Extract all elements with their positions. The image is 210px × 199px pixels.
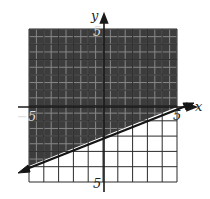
y-tick-bottom: 5	[93, 176, 101, 191]
y-axis-arrow-icon	[101, 14, 108, 23]
y-axis-label: y	[90, 8, 99, 23]
line-arrow-left-icon	[18, 165, 30, 173]
y-tick-top: 5	[93, 24, 101, 39]
inequality-graph: y x 5 −5 5 5	[0, 0, 210, 199]
x-axis-label: x	[195, 99, 203, 114]
x-tick-neg: −5	[17, 109, 36, 124]
x-tick-pos: 5	[173, 108, 181, 123]
